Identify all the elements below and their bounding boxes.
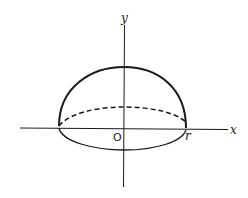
y-axis — [124, 25, 125, 187]
base-ellipse-front — [59, 128, 186, 150]
hemisphere-diagram: y x O r — [0, 0, 248, 198]
base-ellipse-back — [59, 107, 186, 126]
radius-label: r — [185, 129, 192, 143]
x-axis-label: x — [230, 123, 237, 137]
origin-label: O — [113, 131, 122, 144]
hemisphere-outline — [59, 67, 186, 128]
y-axis-label: y — [120, 11, 128, 25]
